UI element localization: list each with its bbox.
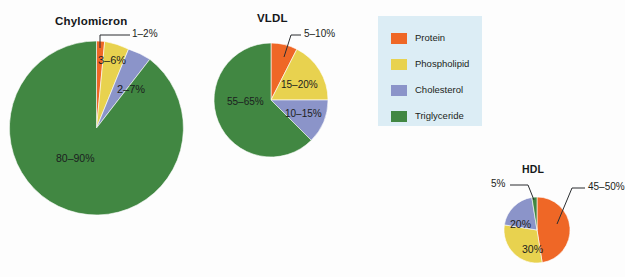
pie-hdl [460, 155, 625, 277]
slice-label-triglyceride: 80–90% [56, 152, 95, 164]
pie-slice-triglyceride[interactable] [9, 41, 183, 215]
legend-label-triglyceride: Triglyceride [415, 111, 464, 121]
chart-hdl: HDL 5% 45–50% 20% 30% [460, 155, 625, 277]
figure-canvas: Chylomicron 1–2% 3–6% 2–7% 80–90% VLDL [0, 0, 625, 277]
slice-label-cholesterol: 2–7% [117, 83, 145, 95]
legend-item-cholesterol[interactable]: Cholesterol [391, 84, 463, 96]
slice-label-phospholipid: 15–20% [281, 79, 318, 90]
slice-label-protein: 45–50% [588, 181, 625, 192]
legend-swatch-cholesterol-icon [391, 85, 407, 96]
legend-swatch-triglyceride-icon [391, 111, 407, 122]
slice-label-protein: 5–10% [304, 28, 335, 39]
slice-label-cholesterol: 20% [510, 218, 531, 230]
chart-chylomicron: Chylomicron 1–2% 3–6% 2–7% 80–90% [0, 0, 200, 240]
legend-swatch-protein-icon [391, 33, 407, 44]
legend-label-protein: Protein [415, 33, 445, 43]
legend-item-phospholipid[interactable]: Phospholipid [391, 58, 469, 70]
slice-label-protein: 1–2% [132, 28, 158, 39]
legend-swatch-phospholipid-icon [391, 59, 407, 70]
legend-item-protein[interactable]: Protein [391, 32, 445, 44]
slice-label-phospholipid: 30% [522, 243, 543, 255]
pie-chylomicron [0, 0, 200, 240]
slice-label-cholesterol: 10–15% [285, 108, 322, 119]
legend-item-triglyceride[interactable]: Triglyceride [391, 110, 464, 122]
chart-vldl: VLDL 5–10% 15–20% 10–15% 55–65% [205, 0, 365, 175]
slice-label-triglyceride: 5% [491, 178, 505, 189]
slice-label-triglyceride: 55–65% [227, 96, 264, 107]
legend: Protein Phospholipid Cholesterol Triglyc… [378, 16, 482, 126]
slice-label-phospholipid: 3–6% [98, 54, 126, 66]
legend-label-cholesterol: Cholesterol [415, 85, 463, 95]
legend-label-phospholipid: Phospholipid [415, 59, 469, 69]
